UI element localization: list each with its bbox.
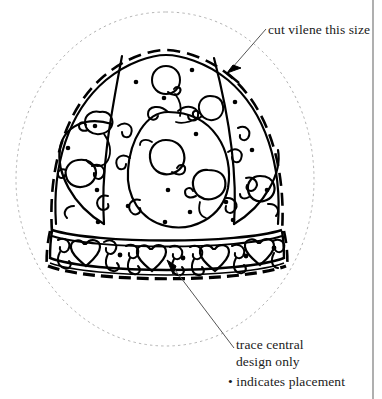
placement-dot: [126, 204, 131, 209]
placement-dot: [244, 254, 249, 259]
pattern-page: cut vilene this size trace central desig…: [0, 0, 382, 399]
placement-dot: [272, 246, 277, 251]
placement-dot: [188, 210, 193, 215]
trace-design-label-line1: trace central: [236, 337, 304, 354]
placement-dot-legend: • indicates placement: [228, 374, 345, 391]
placement-dot: [233, 100, 238, 105]
band-left-edge: [50, 231, 52, 259]
placement-dot: [93, 124, 98, 129]
band-top-edge: [52, 230, 282, 241]
placement-dot: [95, 188, 100, 193]
placement-dot: [163, 220, 168, 225]
placement-dot: [166, 188, 171, 193]
hat-pattern-drawing: [0, 0, 382, 399]
cut-vilene-label: cut vilene this size: [268, 22, 370, 39]
placement-dot: [66, 146, 71, 151]
placement-dot: [96, 220, 101, 225]
heart-motif: [137, 245, 166, 271]
placement-dot: [181, 256, 186, 261]
placement-dot: [190, 68, 195, 73]
brim-bottom-cut-outline: [48, 266, 286, 279]
placement-dot: [265, 188, 270, 193]
placement-dot: [231, 218, 236, 223]
placement-dot: [250, 148, 255, 153]
cut-leader-line: [227, 29, 266, 83]
placement-dot: [118, 253, 123, 258]
placement-dot: [224, 200, 229, 205]
placement-dot: [134, 80, 139, 85]
trace-design-label-line2: design only: [236, 354, 304, 371]
placement-dot: [162, 96, 167, 101]
trace-design-label: trace central design only: [236, 337, 304, 370]
placement-dot: [194, 132, 199, 137]
